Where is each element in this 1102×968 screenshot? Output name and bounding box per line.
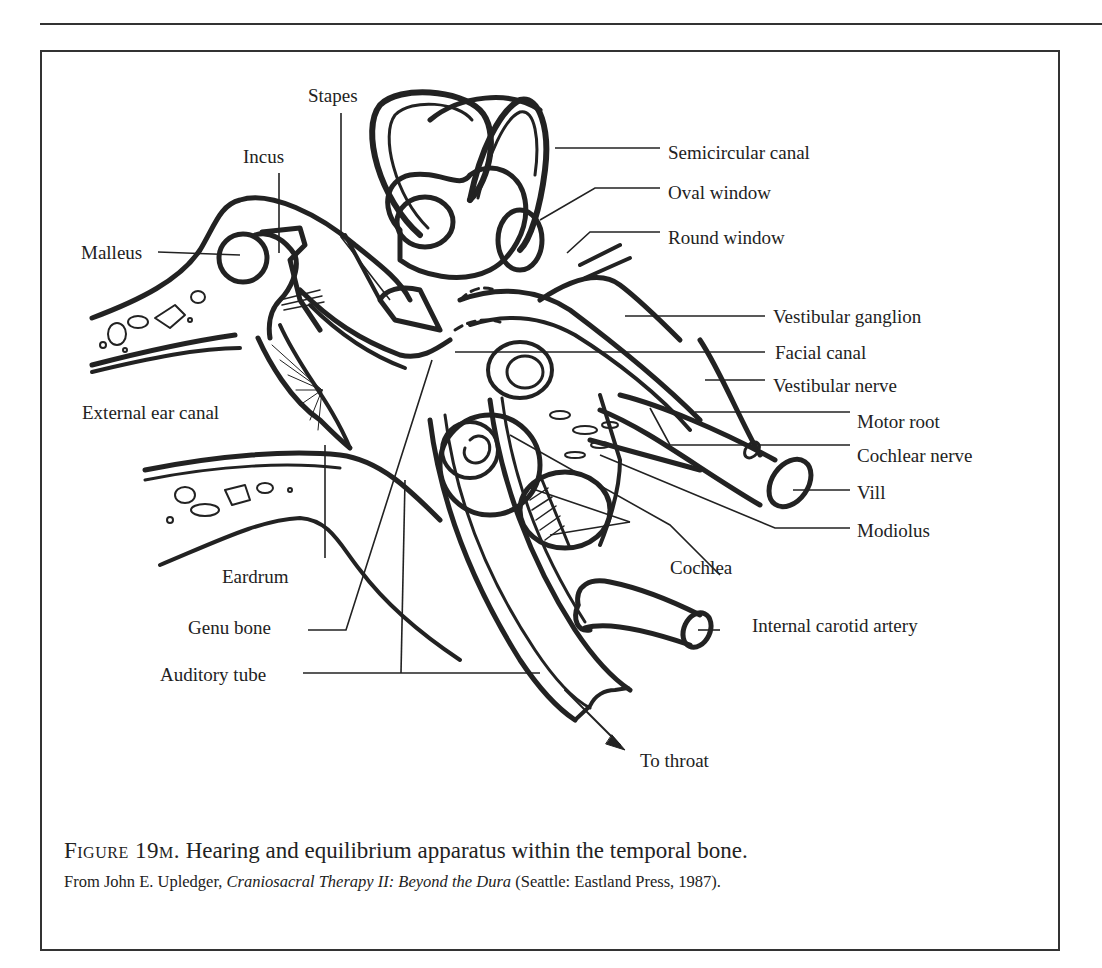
label-facial-canal: Facial canal [775, 343, 866, 362]
label-eardrum: Eardrum [222, 567, 288, 586]
label-stapes: Stapes [308, 86, 358, 105]
source-title: Craniosacral Therapy II: Beyond the Dura [227, 872, 512, 891]
label-oval-window: Oval window [668, 183, 771, 202]
internal-auditory-canal [620, 395, 775, 460]
label-internal-carotid-artery: Internal carotid artery [752, 616, 918, 635]
label-vestibular-ganglion: Vestibular ganglion [773, 307, 921, 326]
internal-carotid-artery [578, 581, 700, 615]
figure-source: From John E. Upledger, Craniosacral Ther… [64, 872, 721, 892]
temporal-bone-lower [145, 453, 440, 520]
eardrum-membrane [258, 338, 350, 448]
label-auditory-tube: Auditory tube [160, 665, 266, 684]
vill-opening [760, 451, 819, 514]
label-motor-root: Motor root [857, 412, 940, 431]
stapes [380, 288, 440, 330]
label-incus: Incus [243, 147, 284, 166]
label-malleus: Malleus [81, 243, 142, 262]
label-genu-bone: Genu bone [188, 618, 271, 637]
figure-number: Figure 19m. [64, 838, 180, 863]
label-cochlea: Cochlea [670, 558, 732, 577]
malleus-head [219, 234, 267, 282]
label-vill: Vill [857, 483, 885, 502]
source-suffix: (Seattle: Eastland Press, 1987). [511, 872, 721, 891]
label-modiolus: Modiolus [857, 521, 930, 540]
label-semicircular-canal: Semicircular canal [668, 143, 810, 162]
source-prefix: From John E. Upledger, [64, 872, 227, 891]
label-vestibular-nerve: Vestibular nerve [773, 376, 897, 395]
bone-texture-lower [167, 483, 292, 523]
ear-anatomy-illustration [0, 0, 1102, 968]
vestibular-ganglion [540, 278, 680, 340]
label-external-ear-canal: External ear canal [82, 403, 219, 422]
label-to-throat: To throat [640, 751, 709, 770]
label-cochlear-nerve: Cochlear nerve [857, 446, 973, 465]
figure-caption-text: Hearing and equilibrium apparatus within… [180, 838, 748, 863]
label-round-window: Round window [668, 228, 785, 247]
figure-caption: Figure 19m. Hearing and equilibrium appa… [64, 838, 748, 864]
